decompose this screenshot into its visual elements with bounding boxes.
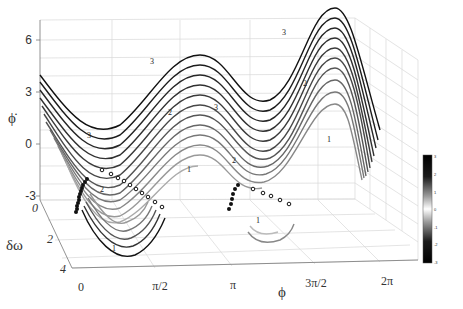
svg-text:1: 1 (187, 165, 191, 174)
svg-text:3: 3 (214, 103, 218, 112)
svg-text:-3: -3 (434, 260, 438, 265)
svg-text:3: 3 (87, 131, 91, 140)
contour-lines (40, 8, 380, 256)
svg-text:1: 1 (434, 190, 437, 195)
svg-text:-1: -1 (434, 225, 438, 230)
y-axis-ticks: 0 2 4 (32, 201, 66, 276)
y-tick: 0 (32, 201, 38, 215)
x-tick: 3π/2 (305, 276, 326, 290)
svg-text:-2: -2 (434, 242, 438, 247)
svg-text:2: 2 (100, 185, 104, 194)
x-tick: 0 (78, 280, 84, 294)
z-tick: 6 (25, 33, 32, 47)
surface-plot: 3 3 3 3 2 2 2 2 1 1 1 1 6 3 0 -3 0 2 (0, 0, 463, 309)
svg-text:3: 3 (434, 154, 437, 159)
z-tick: 0 (25, 137, 32, 151)
x-tick: π/2 (152, 279, 167, 293)
colorbar: 3 2 1 0 -1 -2 -3 (423, 154, 438, 265)
svg-text:1: 1 (327, 135, 331, 144)
y-tick: 2 (47, 232, 53, 246)
svg-text:2: 2 (232, 156, 236, 165)
y-tick: 4 (60, 262, 66, 276)
z-tick: 3 (25, 85, 32, 99)
svg-text:1: 1 (112, 244, 116, 253)
svg-text:2: 2 (168, 108, 172, 117)
y-axis-label: δω (6, 237, 23, 253)
x-tick: π (230, 278, 236, 292)
z-axis-label: ϕ̇ (8, 110, 17, 126)
z-axis-ticks: 6 3 0 -3 (25, 33, 36, 203)
svg-text:3: 3 (150, 57, 154, 66)
svg-text:1: 1 (256, 216, 260, 225)
svg-text:3: 3 (282, 28, 286, 37)
x-axis-label: ϕ (278, 284, 286, 300)
svg-text:0: 0 (434, 207, 437, 212)
x-axis-ticks: 0 π/2 π 3π/2 2π (78, 274, 393, 294)
x-tick: 2π (381, 274, 393, 288)
svg-text:2: 2 (434, 172, 437, 177)
svg-text:2: 2 (303, 79, 307, 88)
contour-labels: 3 3 3 3 2 2 2 2 1 1 1 1 (87, 28, 331, 253)
